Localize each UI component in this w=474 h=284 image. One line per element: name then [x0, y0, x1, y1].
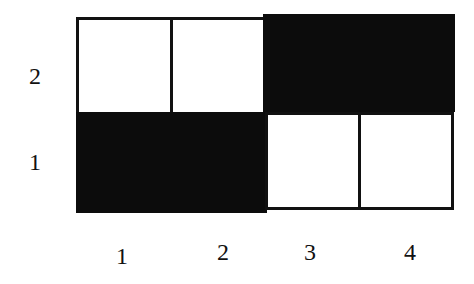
cell-r2-c1: [76, 17, 173, 115]
col-label-4: 4: [395, 240, 425, 264]
grid: [76, 16, 455, 213]
row-label-2: 2: [20, 64, 50, 88]
cell-r2-c3-c4: [263, 14, 455, 112]
col-label-3: 3: [295, 240, 325, 264]
col-label-1: 1: [107, 244, 137, 268]
cell-r1-c4: [358, 112, 454, 210]
cell-r1-c3: [265, 112, 361, 210]
col-label-2: 2: [208, 240, 238, 264]
row-label-1: 1: [20, 150, 50, 174]
cell-r1-c1-c2: [76, 112, 267, 213]
cell-r2-c2: [170, 17, 266, 115]
